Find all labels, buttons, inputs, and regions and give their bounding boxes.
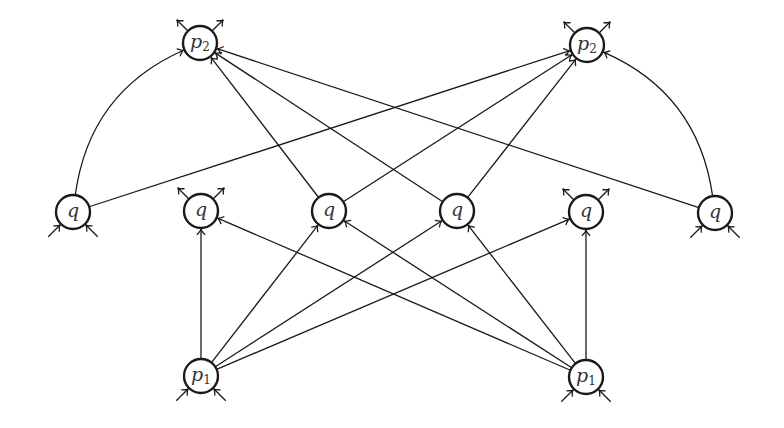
- node-p1_right: p1: [569, 360, 603, 394]
- stubs-layer: [48, 20, 739, 402]
- graph-diagram: p2p2qqqqqqp1p1: [0, 0, 784, 428]
- edge-p1_right-to-q4: [468, 225, 576, 363]
- node-subscript: 1: [203, 373, 211, 387]
- node-q2: q: [184, 194, 218, 228]
- edge-q4-to-p2_left: [215, 53, 443, 202]
- node-label: q: [67, 199, 79, 221]
- node-subscript: 2: [589, 42, 597, 56]
- edge-q6-to-p2_left: [217, 49, 699, 208]
- edge-q1-to-p2_left: [75, 50, 183, 195]
- node-p2_right: p2: [570, 28, 604, 62]
- node-label: q: [323, 198, 335, 220]
- node-label: p: [190, 30, 202, 52]
- node-label: q: [451, 198, 463, 220]
- node-label: q: [580, 199, 592, 221]
- node-label: q: [195, 198, 207, 220]
- node-subscript: 2: [202, 40, 210, 54]
- node-q3: q: [312, 194, 346, 228]
- node-p2_left: p2: [183, 26, 217, 60]
- node-label: p: [191, 363, 203, 385]
- edge-p1_right-to-q3: [344, 221, 572, 368]
- node-q5: q: [569, 195, 603, 229]
- node-subscript: 1: [588, 374, 596, 388]
- nodes-layer: p2p2qqqqqqp1p1: [56, 26, 732, 394]
- edge-q1-to-p2_right: [89, 51, 570, 207]
- incoming-stub-q1-1: [86, 225, 98, 237]
- node-label: q: [709, 200, 721, 222]
- incoming-stub-p1_left-1: [214, 389, 226, 401]
- incoming-stub-p1_right-1: [599, 390, 611, 402]
- node-label: p: [576, 364, 588, 386]
- edge-q4-to-p2_right: [467, 59, 575, 197]
- node-q4: q: [440, 194, 474, 228]
- edge-p1_left-to-q4: [215, 221, 442, 367]
- incoming-stub-p1_right-0: [561, 390, 573, 402]
- node-q6: q: [698, 196, 732, 230]
- edge-p1_left-to-q3: [211, 225, 318, 362]
- incoming-stub-p1_left-0: [176, 389, 188, 401]
- edges-layer: [75, 47, 712, 371]
- node-q1: q: [56, 195, 90, 229]
- incoming-stub-q6-1: [728, 226, 740, 238]
- incoming-stub-q6-0: [690, 226, 702, 238]
- incoming-stub-q1-0: [48, 225, 60, 237]
- edge-q6-to-p2_right: [604, 52, 713, 196]
- node-p1_left: p1: [184, 359, 218, 393]
- node-label: p: [577, 32, 589, 54]
- edge-q3-to-p2_left: [211, 57, 319, 197]
